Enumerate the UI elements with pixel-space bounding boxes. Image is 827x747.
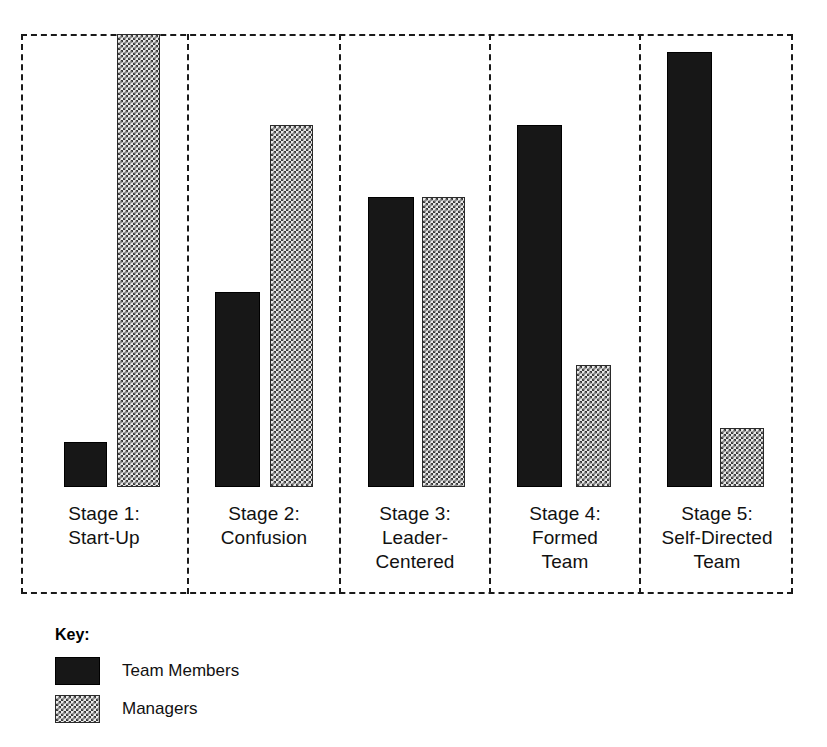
bar-team-members-stage-1 (64, 442, 107, 487)
stage-label-3-line-3: Centered (341, 550, 489, 574)
stage-label-1-line-1: Stage 1: (21, 502, 187, 526)
legend-swatch-team-members-icon (55, 657, 100, 685)
chart-legend: Key: Team Members Managers (55, 626, 415, 730)
bar-managers-stage-4 (576, 365, 611, 487)
bar-team-members-stage-4 (517, 125, 562, 487)
stage-label-4-line-1: Stage 4: (491, 502, 639, 526)
stage-label-4: Stage 4: Formed Team (491, 502, 639, 574)
bar-managers-stage-5 (720, 428, 764, 487)
stage-column-5: Stage 5: Self-Directed Team (639, 34, 793, 594)
stage-column-2: Stage 2: Confusion (187, 34, 339, 594)
stage-label-1: Stage 1: Start-Up (21, 502, 187, 550)
bars-area-stage-5 (641, 34, 793, 487)
bar-team-members-stage-2 (215, 292, 260, 487)
stage-label-2-line-2: Confusion (189, 526, 339, 550)
stage-label-2: Stage 2: Confusion (189, 502, 339, 550)
team-stages-bar-chart: Stage 1: Start-Up Stage 2: Confusion Sta… (0, 0, 827, 747)
stage-label-5-line-3: Team (641, 550, 793, 574)
stage-label-4-line-3: Team (491, 550, 639, 574)
bars-area-stage-2 (189, 34, 339, 487)
stage-label-3: Stage 3: Leader- Centered (341, 502, 489, 574)
stage-label-3-line-1: Stage 3: (341, 502, 489, 526)
stage-columns: Stage 1: Start-Up Stage 2: Confusion Sta… (21, 34, 793, 594)
bar-managers-stage-3 (422, 197, 465, 487)
stage-column-3: Stage 3: Leader- Centered (339, 34, 489, 594)
bar-team-members-stage-3 (368, 197, 414, 487)
bar-team-members-stage-5 (667, 52, 712, 487)
stage-label-5-line-2: Self-Directed (641, 526, 793, 550)
legend-title: Key: (55, 626, 415, 644)
stage-label-1-line-2: Start-Up (21, 526, 187, 550)
bars-area-stage-4 (491, 34, 639, 487)
legend-item-team-members: Team Members (55, 654, 415, 688)
stage-label-2-line-1: Stage 2: (189, 502, 339, 526)
bar-managers-stage-1 (117, 34, 160, 487)
legend-label-managers: Managers (122, 699, 198, 719)
bar-managers-stage-2 (270, 125, 313, 487)
stage-label-5: Stage 5: Self-Directed Team (641, 502, 793, 574)
legend-label-team-members: Team Members (122, 661, 239, 681)
stage-column-1: Stage 1: Start-Up (21, 34, 187, 594)
stage-column-4: Stage 4: Formed Team (489, 34, 639, 594)
stage-label-3-line-2: Leader- (341, 526, 489, 550)
legend-item-managers: Managers (55, 692, 415, 726)
legend-swatch-managers-icon (55, 695, 100, 723)
bars-area-stage-1 (21, 34, 187, 487)
bars-area-stage-3 (341, 34, 489, 487)
stage-label-5-line-1: Stage 5: (641, 502, 793, 526)
stage-label-4-line-2: Formed (491, 526, 639, 550)
